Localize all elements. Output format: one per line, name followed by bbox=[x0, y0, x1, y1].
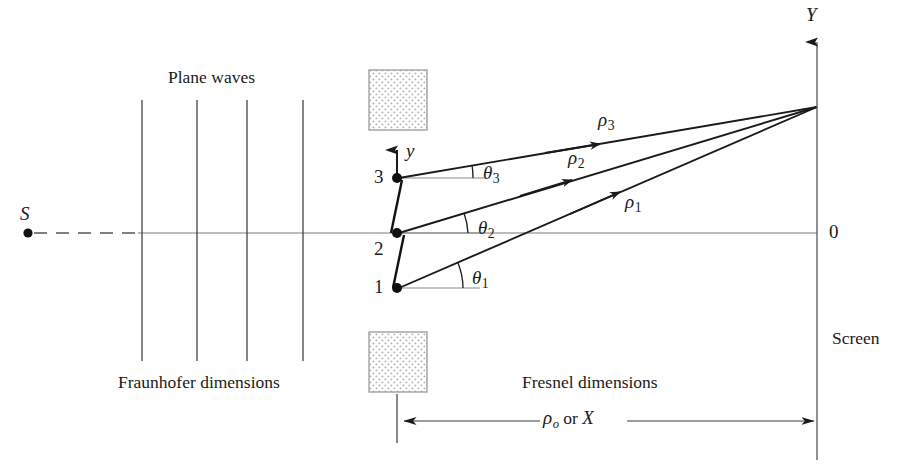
distance-alt-symbol: X bbox=[582, 407, 594, 428]
arrowhead-rho2 bbox=[520, 180, 572, 196]
rho3-label: ρ3 bbox=[598, 110, 614, 133]
dimension-annotation bbox=[397, 394, 814, 443]
source-point-marker bbox=[23, 228, 32, 237]
source-label: S bbox=[20, 204, 30, 223]
aperture-point-label-3: 3 bbox=[374, 167, 384, 186]
screen-label: Screen bbox=[832, 330, 880, 348]
slit-segment-1-2 bbox=[393, 235, 404, 288]
point-marker-1 bbox=[392, 283, 402, 293]
theta1-label: θ1 bbox=[472, 268, 489, 291]
theta1-subscript: 1 bbox=[481, 276, 488, 291]
plane-waves-label: Plane waves bbox=[168, 69, 255, 87]
rho-glyph: ρ bbox=[598, 109, 607, 130]
aperture-point-label-2: 2 bbox=[374, 239, 384, 258]
rho1-label: ρ1 bbox=[625, 192, 641, 215]
arc-theta2 bbox=[464, 213, 468, 233]
plane-wavefront-lines bbox=[142, 100, 303, 361]
theta3-label: θ3 bbox=[483, 163, 500, 186]
theta2-label: θ2 bbox=[478, 218, 495, 241]
diffraction-geometry-figure: S Plane waves Fraunhofer dimensions Fres… bbox=[0, 0, 909, 468]
theta-glyph: θ bbox=[483, 162, 492, 183]
rho-o-glyph: ρ bbox=[543, 407, 552, 428]
screen-axis-label: Y bbox=[806, 5, 817, 24]
aperture-block-lower bbox=[369, 332, 427, 392]
theta3-subscript: 3 bbox=[492, 171, 499, 186]
aperture-block-upper bbox=[369, 70, 427, 130]
local-axis-label: y bbox=[406, 141, 414, 160]
aperture-point-label-1: 1 bbox=[374, 277, 384, 296]
fraunhofer-dimensions-label: Fraunhofer dimensions bbox=[118, 374, 280, 392]
rho2-subscript: 2 bbox=[577, 156, 584, 171]
angle-arcs bbox=[458, 165, 473, 288]
rho1-subscript: 1 bbox=[634, 200, 641, 215]
fresnel-dimensions-label: Fresnel dimensions bbox=[522, 374, 658, 392]
rho-glyph: ρ bbox=[625, 191, 634, 212]
rho-glyph: ρ bbox=[568, 147, 577, 168]
rho-o-subscript: o bbox=[552, 417, 559, 431]
rho3-subscript: 3 bbox=[607, 118, 614, 133]
arrowhead-rho1 bbox=[570, 192, 620, 214]
figure-vector-layer bbox=[0, 0, 909, 468]
slit-segment-2-3 bbox=[391, 180, 402, 233]
point-marker-3 bbox=[392, 173, 402, 183]
theta2-subscript: 2 bbox=[487, 226, 494, 241]
distance-conjunction: or bbox=[563, 408, 578, 428]
arc-theta1 bbox=[458, 263, 463, 288]
arc-theta3 bbox=[472, 165, 473, 178]
overall-distance-label: ρo or X bbox=[543, 408, 594, 430]
point-marker-2 bbox=[392, 228, 402, 238]
rho2-label: ρ2 bbox=[568, 148, 584, 171]
theta-glyph: θ bbox=[472, 267, 481, 288]
origin-label: 0 bbox=[829, 222, 839, 241]
theta-glyph: θ bbox=[478, 217, 487, 238]
